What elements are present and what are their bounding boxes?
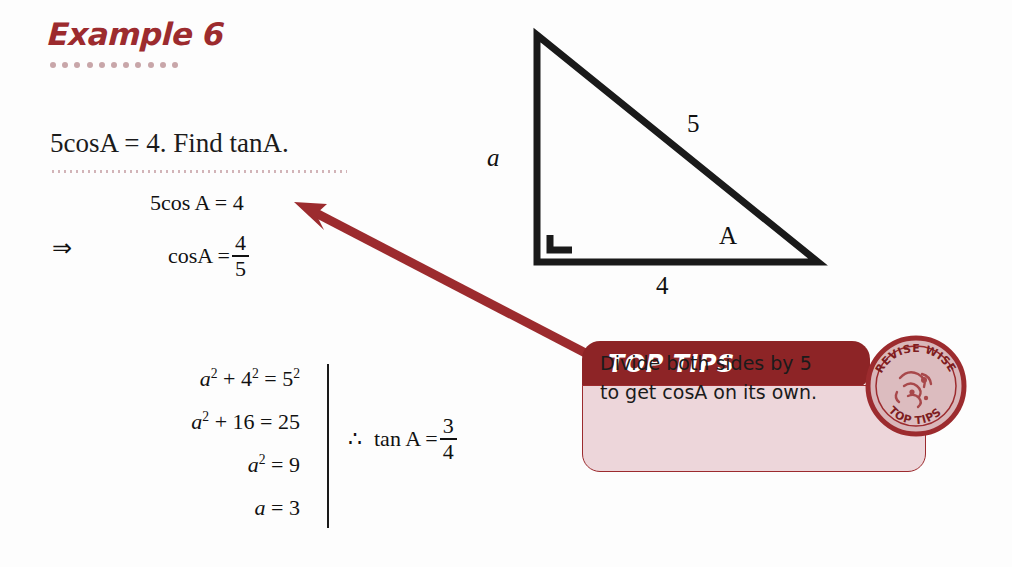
dot [87,62,93,68]
triangle-label-base: 4 [656,272,669,300]
fraction-three-quarters: 3 4 [440,415,457,463]
dot [148,62,154,68]
dot [111,62,117,68]
pythagoras-working: a2 + 42 = 52 a2 + 16 = 25 a2 = 9 a = 3 [150,358,300,530]
dot [135,62,141,68]
worked-example-page: Example 6 5cosA = 4. Find tanA. 5cos A =… [0,0,1012,567]
page-title: Example 6 [47,16,225,52]
top-tips-text: Divide both sides by 5 to get cosA on it… [600,349,862,406]
pythagoras-row-4: a = 3 [150,487,300,530]
working-line-2-lhs: cosA = [168,243,230,269]
triangle-label-angle: A [719,222,737,250]
dot [123,62,129,68]
therefore-symbol: ∴ [348,426,362,452]
dot [160,62,166,68]
working-line-2: cosA = 4 5 [168,232,251,280]
question-text: 5cosA = 4. Find tanA. [50,128,289,159]
fraction-four-fifths: 4 5 [232,232,249,280]
triangle-label-hypotenuse: 5 [687,110,700,138]
dot [50,62,56,68]
pythagoras-row-1: a2 + 42 = 52 [150,358,300,401]
dot [99,62,105,68]
fraction-numerator: 4 [232,232,249,254]
conclusion-text: ∴ tan A = 3 4 [348,415,459,463]
top-tips-line-1: Divide both sides by 5 [600,349,862,378]
callout-arrow [280,190,610,370]
revise-wise-seal: REVISE WISE TOP TIPS [864,334,968,438]
triangle-label-a: a [487,144,500,172]
implies-symbol: ⇒ [52,234,72,262]
fraction-denominator: 4 [440,441,457,463]
question-divider [50,170,347,173]
pythagoras-row-2: a2 + 16 = 25 [150,401,300,444]
conclusion-expression: tan A = [374,426,438,452]
vertical-divider [327,364,329,528]
fraction-denominator: 5 [232,258,249,280]
dot [62,62,68,68]
title-dot-rule [50,62,178,69]
fraction-numerator: 3 [440,415,457,437]
working-line-1: 5cos A = 4 [150,190,244,216]
top-tips-line-2: to get cosA on its own. [600,378,862,407]
pythagoras-row-3: a2 = 9 [150,444,300,487]
dot [172,62,178,68]
dot [74,62,80,68]
